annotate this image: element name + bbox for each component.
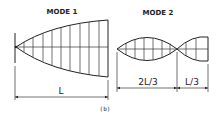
mode1-hatching [24, 21, 99, 76]
mode2-dimension-right-label: L/3 [185, 77, 199, 87]
mode2-dimension-left-label: 2L/3 [138, 77, 158, 87]
mode1-dimension-label: L [58, 86, 63, 96]
mode1-upper-envelope [16, 20, 108, 47]
mode1-group: MODE 1 L [15, 8, 108, 100]
mode1-title: MODE 1 [47, 8, 78, 16]
mode2-lobe2-lower [177, 49, 208, 61]
mode2-group: MODE 2 2L/3 L/3 [117, 9, 208, 92]
mode2-lobe2-upper [177, 37, 208, 49]
mode2-title: MODE 2 [143, 9, 174, 17]
figure-caption: (b) [100, 105, 111, 112]
mode-shapes-diagram: MODE 1 L MODE 2 [0, 0, 218, 120]
mode1-lower-envelope [16, 47, 108, 77]
